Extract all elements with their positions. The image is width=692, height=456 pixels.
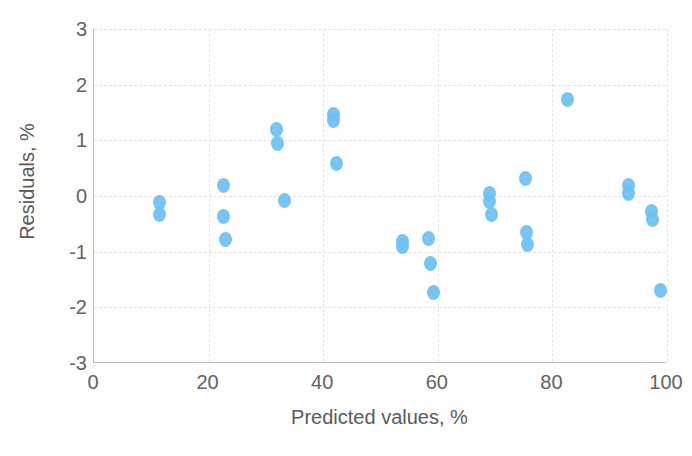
y-axis-title: Residuals, %	[16, 82, 39, 282]
residuals-scatter-chart: 3210-1-2-3 020406080100 Predicted values…	[0, 0, 692, 456]
data-point	[561, 92, 574, 107]
y-axis-tick-labels: 3210-1-2-3	[43, 29, 87, 363]
data-point	[519, 171, 532, 186]
y-tick-label: 2	[47, 75, 87, 95]
data-point	[217, 178, 230, 193]
gridline-horizontal	[94, 140, 666, 141]
data-point	[622, 186, 635, 201]
data-point	[270, 122, 283, 137]
x-tick-label: 20	[178, 371, 238, 393]
data-point	[396, 239, 409, 254]
data-point	[646, 212, 659, 227]
y-tick-label: 3	[47, 19, 87, 39]
gridline-horizontal	[94, 307, 666, 308]
data-point	[330, 156, 343, 171]
plot-area	[93, 29, 666, 363]
y-tick-label: -2	[47, 297, 87, 317]
gridline-vertical	[209, 29, 210, 362]
data-point	[654, 283, 667, 298]
gridline-vertical	[667, 29, 668, 362]
y-tick-label: -1	[47, 242, 87, 262]
x-axis-title: Predicted values, %	[93, 406, 666, 429]
gridline-horizontal	[94, 85, 666, 86]
y-tick-label: 1	[47, 130, 87, 150]
data-point	[271, 136, 284, 151]
x-tick-label: 0	[63, 371, 123, 393]
data-point	[219, 232, 232, 247]
y-tick-label: 0	[47, 186, 87, 206]
data-point	[327, 113, 340, 128]
x-tick-label: 100	[636, 371, 692, 393]
data-point	[485, 207, 498, 222]
data-point	[278, 193, 291, 208]
data-point	[217, 209, 230, 224]
data-point	[521, 237, 534, 252]
x-axis-tick-labels: 020406080100	[93, 371, 666, 397]
data-point	[427, 285, 440, 300]
x-tick-label: 80	[521, 371, 581, 393]
y-tick-label: -3	[47, 353, 87, 373]
gridline-horizontal	[94, 196, 666, 197]
gridline-vertical	[438, 29, 439, 362]
data-point	[422, 231, 435, 246]
gridline-vertical	[552, 29, 553, 362]
x-tick-label: 40	[292, 371, 352, 393]
gridline-vertical	[323, 29, 324, 362]
data-point	[153, 207, 166, 222]
gridline-horizontal	[94, 252, 666, 253]
data-point	[424, 256, 437, 271]
x-tick-label: 60	[407, 371, 467, 393]
gridline-horizontal	[94, 29, 666, 30]
